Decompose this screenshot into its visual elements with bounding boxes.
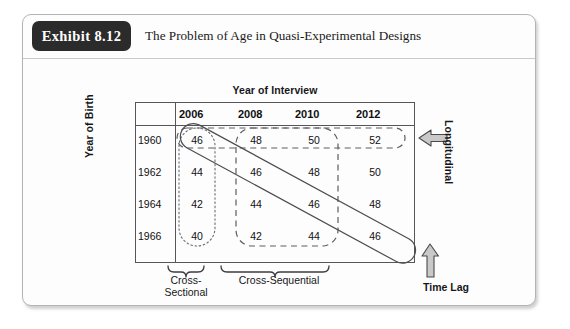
time-lag-arrow-icon xyxy=(422,244,439,277)
cell-1964-2010: 46 xyxy=(299,198,329,210)
cell-1962-2008: 46 xyxy=(241,166,271,178)
cell-1966-2006: 40 xyxy=(182,230,212,242)
exhibit-title: The Problem of Age in Quasi-Experimental… xyxy=(145,28,421,44)
cell-1966-2012: 46 xyxy=(360,230,390,242)
table-birth-column-rule xyxy=(175,102,176,263)
cell-1964-2006: 42 xyxy=(182,198,212,210)
y-axis-title: Year of Birth xyxy=(83,94,95,158)
cell-1960-2012: 52 xyxy=(360,134,390,146)
column-header-2010: 2010 xyxy=(295,108,319,120)
cell-1960-2006: 46 xyxy=(182,134,212,146)
column-header-2012: 2012 xyxy=(356,108,380,120)
cross-sectional-label: Cross- Sectional xyxy=(156,274,216,298)
cross-sequential-label: Cross-Sequential xyxy=(219,274,339,286)
column-header-2008: 2008 xyxy=(238,108,262,120)
page-background: Exhibit 8.12 The Problem of Age in Quasi… xyxy=(0,0,570,329)
cell-1966-2008: 42 xyxy=(241,230,271,242)
time-lag-label: Time Lag xyxy=(423,281,469,293)
figure-area: Year of Interview Year of Birth 2006 200… xyxy=(23,58,535,306)
cell-1964-2012: 48 xyxy=(360,198,390,210)
cell-1962-2012: 50 xyxy=(360,166,390,178)
row-header-1962: 1962 xyxy=(138,166,172,178)
longitudinal-label: Longitudinal xyxy=(443,120,455,184)
exhibit-number-badge: Exhibit 8.12 xyxy=(32,21,131,51)
cell-1962-2006: 44 xyxy=(182,166,212,178)
cell-1966-2010: 44 xyxy=(299,230,329,242)
x-axis-title: Year of Interview xyxy=(135,84,415,96)
row-header-1966: 1966 xyxy=(138,230,172,242)
table-header-rule xyxy=(135,125,415,126)
cell-1962-2010: 48 xyxy=(299,166,329,178)
row-header-1960: 1960 xyxy=(138,134,172,146)
cell-1964-2008: 44 xyxy=(241,198,271,210)
exhibit-card: Exhibit 8.12 The Problem of Age in Quasi… xyxy=(22,14,536,306)
column-header-2006: 2006 xyxy=(179,108,203,120)
cross-sectional-label-line1: Cross- xyxy=(171,274,202,286)
row-header-1964: 1964 xyxy=(138,198,172,210)
cross-sectional-label-line2: Sectional xyxy=(164,286,207,298)
cell-1960-2010: 50 xyxy=(299,134,329,146)
cell-1960-2008: 48 xyxy=(241,134,271,146)
